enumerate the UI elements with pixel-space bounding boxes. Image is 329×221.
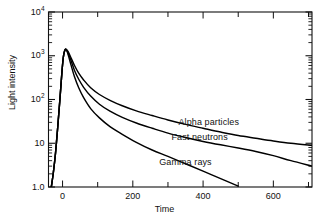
x-tick-label: 600 <box>253 192 293 201</box>
y-tick-label: 1.0 <box>11 183 45 192</box>
x-tick-label: 200 <box>113 192 153 201</box>
series-annotation: Gamma rays <box>159 158 212 167</box>
y-tick-label: 10 <box>11 139 45 148</box>
y-tick-label: 102 <box>11 95 45 104</box>
y-tick-label: 103 <box>11 51 45 60</box>
series-annotation: Fast neutrons <box>172 133 228 142</box>
x-tick-label: 400 <box>183 192 223 201</box>
series-annotation: Alpha particles <box>179 118 240 127</box>
x-tick-label: 0 <box>43 192 83 201</box>
x-axis-label: Time <box>0 205 329 214</box>
chart-figure: Light intensity Time 104103102101.002004… <box>0 0 329 221</box>
y-tick-label: 104 <box>11 8 45 17</box>
chart-plot-area <box>0 0 329 221</box>
